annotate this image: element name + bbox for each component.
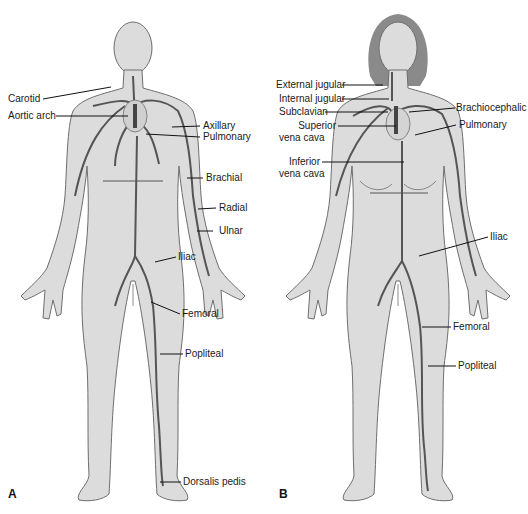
label-inferior-vena-cava-line2: vena cava xyxy=(279,168,325,180)
label-inferior-vena-cava-line1: Inferior xyxy=(276,156,320,168)
label-iliac-b: Iliac xyxy=(490,231,508,243)
label-ulnar: Ulnar xyxy=(219,225,243,237)
label-brachiocephalic: Brachiocephalic xyxy=(456,102,527,114)
label-iliac-a: Iliac xyxy=(178,251,196,263)
label-external-jugular: External jugular xyxy=(276,79,345,91)
label-superior-vena-cava-line1: Superior xyxy=(276,120,336,132)
label-radial: Radial xyxy=(219,202,247,214)
label-popliteal-a: Popliteal xyxy=(185,348,223,360)
label-internal-jugular: Internal jugular xyxy=(279,93,345,105)
panel-letter-b: B xyxy=(279,487,288,501)
label-femoral-a: Femoral xyxy=(182,308,219,320)
label-dorsalis-pedis: Dorsalis pedis xyxy=(183,476,246,488)
male-figure xyxy=(21,22,245,501)
figures-illustration xyxy=(0,0,528,514)
label-pulmonary-b: Pulmonary xyxy=(459,119,507,131)
label-carotid: Carotid xyxy=(8,93,40,105)
circulatory-diagram: Carotid Aortic arch Axillary Pulmonary B… xyxy=(0,0,528,514)
label-aortic-arch: Aortic arch xyxy=(8,110,56,122)
label-femoral-b: Femoral xyxy=(453,321,490,333)
label-brachial: Brachial xyxy=(206,172,242,184)
label-pulmonary-a: Pulmonary xyxy=(203,131,251,143)
label-subclavian: Subclavian xyxy=(279,106,328,118)
label-popliteal-b: Popliteal xyxy=(458,360,496,372)
label-superior-vena-cava-line2: vena cava xyxy=(279,132,325,144)
panel-letter-a: A xyxy=(8,487,17,501)
